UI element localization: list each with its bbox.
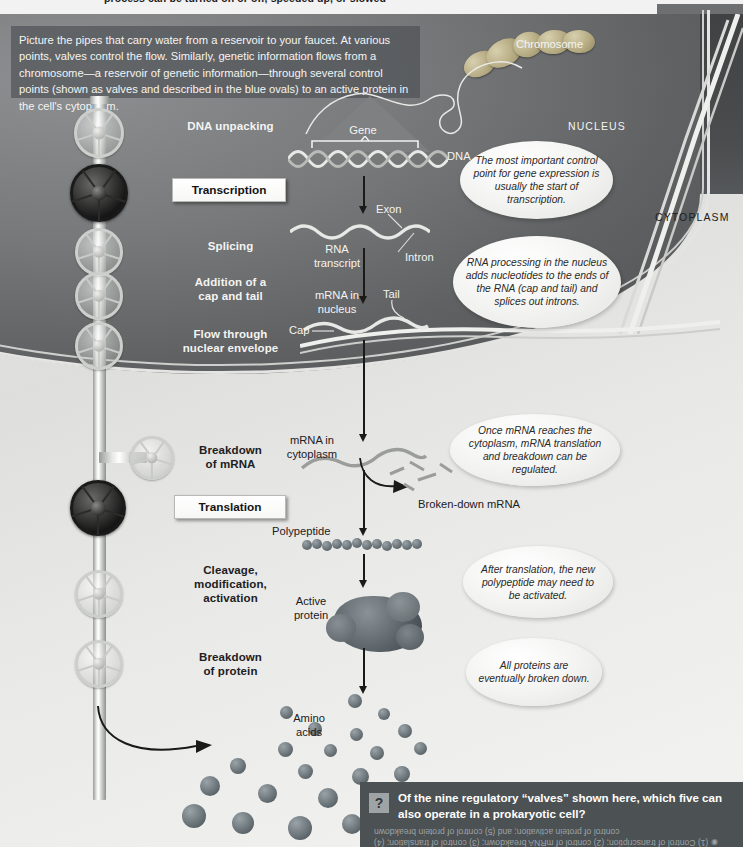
question-mark-icon: ? <box>369 793 389 813</box>
step-label-cap-and-tail: Addition of a cap and tail <box>148 275 313 303</box>
arrowhead-nuclear-export <box>359 434 367 442</box>
step-label-splicing: Splicing <box>148 239 313 253</box>
callout-activation-text: After translation, the new polypeptide m… <box>463 563 613 602</box>
polypeptide-bead-chain <box>302 538 422 552</box>
valve-hub <box>91 185 106 200</box>
clipped-caption-text: process can be turned on or off, speeded… <box>104 0 386 4</box>
arrow-transcription <box>363 176 365 210</box>
review-question-text: Of the nine regulatory “valves” shown he… <box>398 790 734 821</box>
intro-text: Picture the pipes that carry water from … <box>19 32 412 114</box>
review-answer-text-inverted: ◉ (1) Control of transcription; (2) cont… <box>374 826 732 847</box>
callout-transcription: The most important control point for gen… <box>460 141 613 219</box>
step-label-dna-unpacking: DNA unpacking <box>148 119 313 133</box>
pipe-top-cap <box>90 96 109 104</box>
figure-root: process can be turned on or off, speeded… <box>0 0 743 847</box>
label-exon: Exon <box>376 203 426 217</box>
step-label-translation: Translation <box>174 495 286 519</box>
arrowhead-protein-activation <box>359 580 367 588</box>
valve-splicing[interactable] <box>75 228 123 276</box>
callout-cytoplasm: Once mRNA reaches the cytoplasm, mRNA tr… <box>450 414 620 486</box>
label-active-protein: Active protein <box>276 595 346 622</box>
review-answer-value: (1) Control of transcription; (2) contro… <box>374 827 708 847</box>
valve-nuclear-envelope[interactable] <box>75 322 123 370</box>
label-cap: Cap <box>289 324 319 338</box>
callout-activation: After translation, the new polypeptide m… <box>463 546 613 618</box>
label-nucleus: NUCLEUS <box>568 120 626 132</box>
valve-cleavage-modification[interactable] <box>75 570 123 618</box>
step-label-transcription: Transcription <box>172 178 286 202</box>
callout-rna-processing-text: RNA processing in the nucleus adds nucle… <box>453 256 621 308</box>
valve-protein-breakdown[interactable] <box>75 640 123 688</box>
valve-hub <box>91 501 106 516</box>
arrow-nuclear-export <box>363 340 365 438</box>
step-label-protein-breakdown: Breakdown of protein <box>148 650 313 678</box>
arrowhead-translation <box>359 528 367 536</box>
callout-transcription-text: The most important control point for gen… <box>460 154 613 206</box>
label-chromosome: Chromosome <box>516 38 616 52</box>
callout-rna-processing: RNA processing in the nucleus adds nucle… <box>453 236 621 328</box>
valve-cap-tail[interactable] <box>75 272 123 320</box>
valve-hub <box>93 127 106 140</box>
callout-breakdown-text: All proteins are eventually broken down. <box>466 659 602 685</box>
label-polypeptide: Polypeptide <box>272 525 352 539</box>
label-tail: Tail <box>383 288 423 302</box>
valve-translation[interactable] <box>70 480 126 536</box>
label-cytoplasm: CYTOPLASM <box>655 211 729 223</box>
valve-transcription[interactable] <box>70 164 128 222</box>
review-question-bar: ? Of the nine regulatory “valves” shown … <box>360 782 743 847</box>
label-broken-down-mrna: Broken-down mRNA <box>418 498 548 512</box>
chromosome-illustration <box>455 22 625 102</box>
valve-dna-unpacking[interactable] <box>74 108 124 158</box>
label-gene: Gene <box>333 124 393 138</box>
label-amino-acids: Amino acids <box>276 712 342 739</box>
intro-text-box: Picture the pipes that carry water from … <box>11 26 420 98</box>
label-intron: Intron <box>405 251 453 265</box>
label-mrna-cytoplasm: mRNA in cytoplasm <box>274 434 350 461</box>
label-mrna-nucleus: mRNA in nucleus <box>300 289 374 316</box>
arrowhead-transcription <box>359 206 367 214</box>
callout-cytoplasm-text: Once mRNA reaches the cytoplasm, mRNA tr… <box>450 424 620 476</box>
callout-breakdown: All proteins are eventually broken down. <box>466 638 602 706</box>
arrow-translation <box>363 470 365 532</box>
answer-bullet-icon: ◉ <box>708 838 717 847</box>
